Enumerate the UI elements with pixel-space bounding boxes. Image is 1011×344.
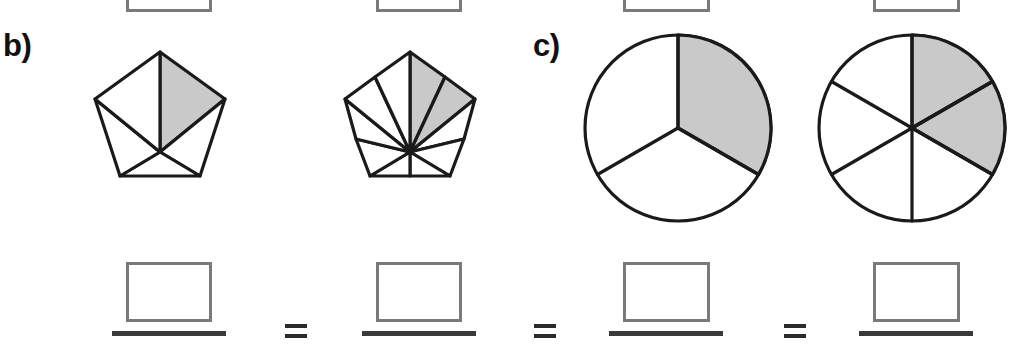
part-label-b: b) — [3, 30, 31, 61]
figure-pentagon-tenths — [300, 26, 480, 238]
equals-sign-c — [784, 324, 806, 338]
answer-box-a-2[interactable] — [376, 0, 462, 12]
answer-box-a-3[interactable] — [623, 0, 710, 12]
figure-circle-sixths — [817, 33, 1011, 229]
answer-box-c-1[interactable] — [623, 262, 710, 322]
fraction-bar-b-1 — [112, 331, 226, 336]
fraction-bar-c-1 — [609, 331, 723, 336]
answer-box-c-2[interactable] — [873, 262, 960, 322]
equals-sign-b — [285, 324, 307, 338]
figure-pentagon-fifths — [50, 26, 230, 238]
answer-box-b-2[interactable] — [376, 262, 462, 322]
equals-sign-b-trailing — [534, 324, 556, 338]
fraction-bar-b-2 — [362, 331, 476, 336]
answer-box-a-1[interactable] — [126, 0, 212, 12]
figure-circle-thirds — [583, 33, 779, 229]
part-label-c: c) — [533, 30, 560, 61]
answer-box-a-4[interactable] — [873, 0, 960, 12]
answer-box-b-1[interactable] — [126, 262, 212, 322]
fraction-bar-c-2 — [859, 331, 973, 336]
